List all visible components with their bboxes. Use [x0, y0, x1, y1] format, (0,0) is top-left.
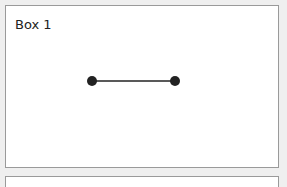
connector-line: [0, 0, 287, 187]
diagram-canvas: Box 1: [0, 0, 287, 187]
start-node-dot-icon[interactable]: [87, 76, 97, 86]
end-node-dot-icon[interactable]: [170, 76, 180, 86]
box-2[interactable]: [5, 176, 279, 187]
